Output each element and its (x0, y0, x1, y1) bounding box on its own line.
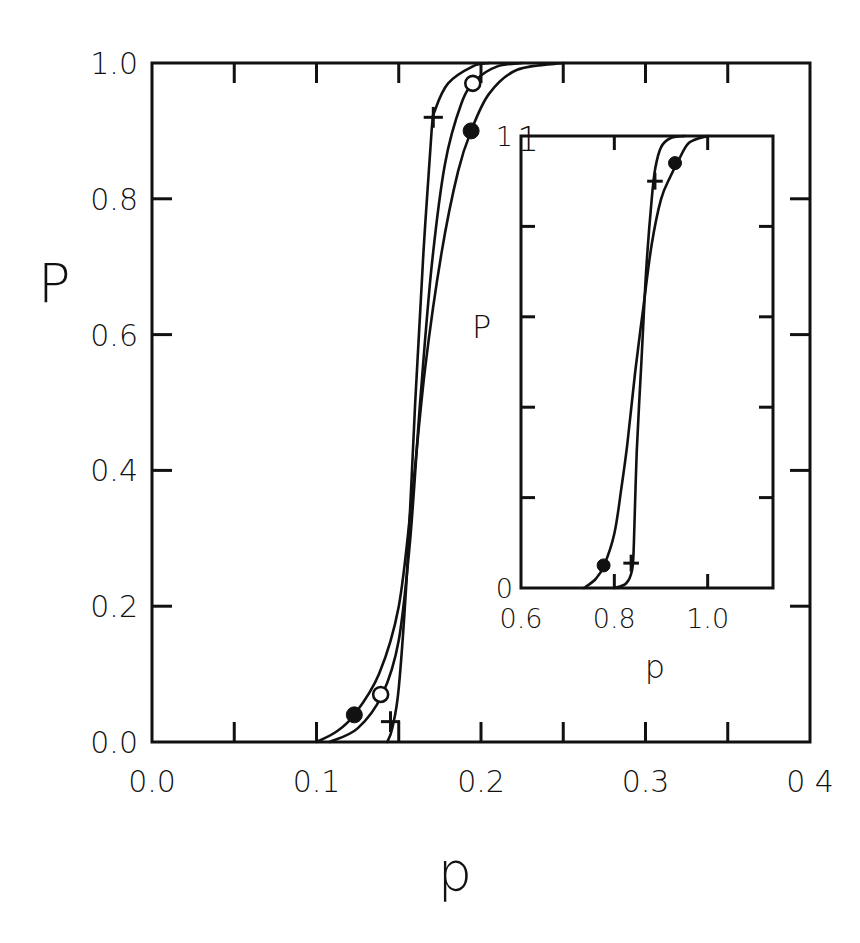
open-circle-marker (465, 76, 480, 91)
y-tick-label: 0.8 (90, 182, 138, 217)
inset-x-axis-title: p (645, 648, 665, 686)
x-tick-label: 0.0 (128, 764, 176, 799)
filled-circle-marker (463, 123, 479, 139)
y-tick-label: 0.4 (90, 453, 138, 488)
filled-circle-marker (597, 559, 610, 572)
y-tick-label: 0.6 (90, 318, 138, 353)
inset-x-tick-label: 1.0 (686, 603, 729, 634)
filled-circle-marker (669, 157, 682, 170)
plus-marker (647, 173, 663, 190)
chart-figure: 0.00.10.20.30 40.00.20.40.60.81.0 0.60.8… (0, 0, 860, 943)
filled-circle-marker (346, 707, 362, 723)
open-circle-marker (373, 687, 388, 702)
curve-line (330, 63, 522, 742)
curve-line (317, 63, 564, 742)
y-tick-label: 0.2 (90, 589, 138, 624)
inset-plot-frame (521, 136, 773, 588)
x-tick-label: 0.3 (622, 764, 670, 799)
main-plot-frame (152, 63, 810, 742)
y-tick-label: 1.0 (90, 46, 138, 81)
inset-x-tick-label: 0.6 (500, 603, 543, 634)
main-y-axis-title: P (38, 252, 71, 315)
main-plot-area: 0.00.10.20.30 40.00.20.40.60.81.0 (90, 46, 834, 799)
curve-annotation-label: 1 (517, 119, 539, 159)
x-tick-label: 0.2 (457, 764, 505, 799)
inset-series-filled-circle (584, 136, 708, 588)
series-open-circle (330, 63, 522, 742)
plus-marker (381, 711, 400, 732)
main-x-axis-title: p (438, 840, 472, 903)
inset-x-tick-label: 0.8 (593, 603, 636, 634)
plus-marker (623, 555, 639, 572)
inset-y-tick-label: 0 (496, 573, 513, 604)
inset-series-plus (614, 136, 684, 588)
series-filled-circle (317, 63, 564, 742)
phase-transition-chart: 0.00.10.20.30 40.00.20.40.60.81.0 0.60.8… (0, 0, 860, 943)
inset-y-axis-title: P (472, 308, 491, 346)
curve-line (387, 63, 489, 742)
inset-plot-area: 0.60.81.001 (496, 121, 773, 634)
x-tick-label: 0.1 (293, 764, 341, 799)
series-plus (381, 63, 489, 742)
x-tick-label: 0 4 (786, 764, 834, 799)
plus-marker (424, 107, 443, 128)
inset-curve-line (614, 136, 684, 588)
y-tick-label: 0.0 (90, 725, 138, 760)
inset-curve-line (584, 136, 708, 588)
inset-y-tick-label: 1 (496, 121, 513, 152)
